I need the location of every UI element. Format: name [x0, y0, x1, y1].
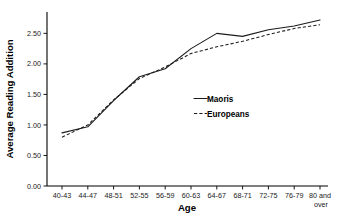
x-tick-label: 80 and — [309, 191, 331, 200]
series-line-europeans — [62, 25, 320, 137]
x-tick-label: 52-55 — [130, 191, 148, 200]
x-tick-label-line2: over — [314, 200, 329, 209]
x-tick-label: 76-79 — [285, 191, 303, 200]
x-axis-title: Age — [178, 202, 196, 213]
y-tick-label: 0.50 — [27, 151, 41, 160]
legend-label-europeans: Europeans — [207, 110, 250, 119]
legend: Maoris Europeans — [194, 95, 250, 119]
x-tick-label: 44-47 — [79, 191, 97, 200]
x-tick-label: 40-43 — [53, 191, 71, 200]
line-chart-figure: 0.000.501.001.502.002.50 40-4344-4748-51… — [0, 0, 342, 222]
y-axis-ticks: 0.000.501.001.502.002.50 — [27, 29, 47, 191]
x-tick-label: 60-63 — [182, 191, 200, 200]
series-line-maoris — [62, 20, 320, 133]
y-axis-title: Average Reading Addition — [4, 39, 15, 158]
x-tick-label: 48-51 — [104, 191, 122, 200]
y-tick-label: 1.50 — [27, 90, 41, 99]
y-tick-label: 2.50 — [27, 29, 41, 38]
y-tick-label: 1.00 — [27, 121, 41, 130]
x-tick-label: 64-67 — [208, 191, 226, 200]
chart-canvas: 0.000.501.001.502.002.50 40-4344-4748-51… — [0, 0, 342, 222]
legend-label-maoris: Maoris — [207, 95, 234, 104]
x-tick-label: 72-75 — [259, 191, 277, 200]
y-tick-label: 2.00 — [27, 59, 41, 68]
y-tick-label: 0.00 — [27, 182, 41, 191]
x-tick-label: 68-71 — [233, 191, 251, 200]
x-tick-label: 56-59 — [156, 191, 174, 200]
